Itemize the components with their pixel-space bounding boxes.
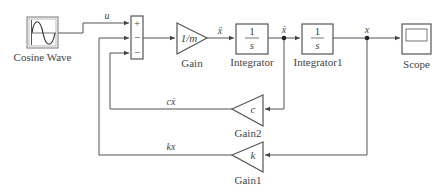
signal-label-kx: kx bbox=[167, 141, 176, 152]
sum-block[interactable]: + − − bbox=[131, 16, 143, 59]
sum-sign-3: − bbox=[134, 46, 140, 58]
integrator-denominator: s bbox=[250, 39, 254, 51]
wire-kx bbox=[99, 38, 232, 155]
signal-label-u: u bbox=[105, 10, 110, 21]
gain2-value: c bbox=[251, 103, 256, 115]
signal-label-x: x bbox=[364, 24, 370, 35]
cosine-wave-label: Cosine Wave bbox=[14, 51, 72, 63]
gain-value: 1/m bbox=[181, 32, 198, 44]
scope-label: Scope bbox=[403, 58, 430, 70]
integrator1-block[interactable]: 1 s bbox=[302, 24, 333, 54]
integrator1-denominator: s bbox=[315, 39, 319, 51]
scope-block[interactable] bbox=[402, 24, 431, 54]
integrator1-label: Integrator1 bbox=[294, 56, 343, 68]
signal-label-xdot: ẋ bbox=[281, 24, 287, 35]
integrator-label: Integrator bbox=[230, 56, 274, 68]
gain-block[interactable]: 1/m bbox=[177, 23, 207, 54]
integrator-block[interactable]: 1 s bbox=[236, 24, 268, 54]
sum-sign-1: + bbox=[134, 17, 140, 29]
wire-u bbox=[58, 23, 129, 33]
scope-screen-icon bbox=[406, 29, 427, 41]
block-diagram-canvas: Cosine Wave + − − 1/m Gain 1 s Integrato… bbox=[0, 0, 447, 195]
gain1-block[interactable]: k bbox=[232, 142, 263, 172]
integrator1-numerator: 1 bbox=[315, 25, 321, 37]
signal-label-xddot: ẍ bbox=[217, 25, 223, 36]
cosine-wave-block[interactable] bbox=[27, 17, 58, 48]
sum-sign-2: − bbox=[134, 31, 140, 43]
gain2-label: Gain2 bbox=[235, 127, 262, 139]
gain1-label: Gain1 bbox=[235, 174, 262, 186]
integrator-numerator: 1 bbox=[249, 25, 255, 37]
branch-point-x bbox=[365, 36, 370, 41]
gain-label: Gain bbox=[181, 57, 203, 69]
branch-point-xdot bbox=[282, 36, 287, 41]
signal-label-cxdot: cẋ bbox=[167, 96, 176, 107]
gain2-block[interactable]: c bbox=[232, 95, 263, 126]
